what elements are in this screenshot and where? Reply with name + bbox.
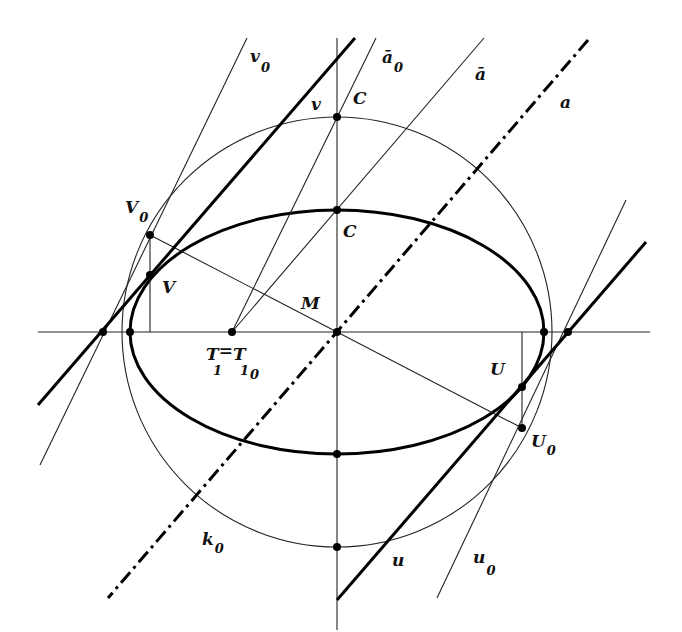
label-C-mid: C bbox=[343, 221, 357, 241]
point-U0 bbox=[518, 424, 526, 432]
label-u0: u0 bbox=[473, 547, 495, 578]
label-a: a bbox=[560, 92, 571, 112]
label-a-bar0: ā0 bbox=[382, 47, 403, 75]
point-circle-bottom bbox=[333, 543, 341, 551]
point-M bbox=[333, 328, 341, 336]
tangent-v0 bbox=[40, 38, 247, 465]
point-V0 bbox=[146, 231, 154, 239]
label-v0: v0 bbox=[250, 46, 270, 75]
label-T10-sub: 10 bbox=[240, 363, 259, 382]
affinity-axis-a bbox=[108, 40, 588, 598]
point-U bbox=[518, 383, 526, 391]
point-C bbox=[333, 206, 341, 214]
tangent-u bbox=[337, 242, 646, 600]
label-V0: V0 bbox=[125, 197, 148, 225]
label-U0: U0 bbox=[531, 431, 556, 458]
label-U: U bbox=[490, 359, 506, 379]
label-T1: T=T bbox=[206, 340, 247, 364]
point-ellipse-right bbox=[540, 328, 548, 336]
line-a-bar0 bbox=[232, 38, 376, 332]
point-V bbox=[146, 271, 154, 279]
tangent-v bbox=[38, 38, 355, 405]
ellipse-construction-diagram: v0 ā0 ā a v C C V0 V M T=T 1 10 U U0 k0 … bbox=[0, 0, 682, 632]
label-T1-sub: 1 bbox=[213, 363, 222, 378]
label-V: V bbox=[162, 277, 177, 297]
label-k0: k0 bbox=[202, 529, 224, 556]
point-C0 bbox=[333, 113, 341, 121]
point-tangent-left bbox=[99, 328, 107, 336]
label-u: u bbox=[392, 550, 404, 570]
label-C-top: C bbox=[353, 88, 367, 108]
point-ellipse-bottom bbox=[333, 450, 341, 458]
label-a-bar: ā bbox=[475, 64, 486, 84]
line-a-bar bbox=[232, 38, 484, 332]
label-M: M bbox=[300, 293, 321, 313]
label-v: v bbox=[311, 94, 322, 114]
point-T1 bbox=[228, 328, 236, 336]
point-tangent-right bbox=[564, 328, 572, 336]
point-ellipse-left bbox=[126, 328, 134, 336]
